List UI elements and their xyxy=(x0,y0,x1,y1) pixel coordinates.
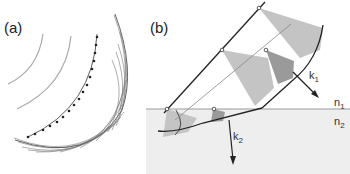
panel-a-label: (a) xyxy=(4,19,22,36)
panel-b: (b) xyxy=(146,2,350,174)
cone-middle xyxy=(222,50,274,106)
wavefront-arc-1 xyxy=(8,34,43,84)
diagram-svg: (a) xyxy=(0,0,350,174)
ray-gray xyxy=(175,24,291,120)
huygens-wavelets xyxy=(14,15,127,152)
wavefront-dots xyxy=(27,36,99,139)
cone-upper-right xyxy=(259,8,323,58)
diagram-canvas: (a) xyxy=(0,0,350,174)
panel-a: (a) xyxy=(4,14,128,152)
k1-label: k1 xyxy=(309,69,320,84)
panel-b-label: (b) xyxy=(150,19,168,36)
